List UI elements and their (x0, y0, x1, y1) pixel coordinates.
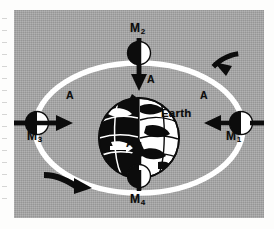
satellite-label-m4: M4 (130, 193, 145, 205)
orbital-diagram-svg (14, 10, 264, 218)
vector-label-a-m4: A (126, 138, 134, 149)
vector-arrowhead-m2 (131, 74, 147, 91)
figure-page: M2 M4 M3 M1 A A A A Earth (0, 0, 274, 229)
vector-label-a-m1: A (200, 90, 208, 101)
vector-label-a-m3: A (66, 90, 74, 101)
satellite-label-m3: M3 (27, 130, 42, 142)
vector-arrowhead-m3 (56, 115, 73, 131)
diagram-panel: M2 M4 M3 M1 A A A A Earth (14, 10, 264, 218)
satellite-label-m2: M2 (130, 22, 145, 34)
motion-arrow-top-right (210, 51, 240, 76)
satellite-label-m1: M1 (226, 130, 241, 142)
vector-arrowhead-m1 (204, 115, 221, 131)
scan-artifact-marks (2, 18, 8, 218)
vector-label-a-m2: A (147, 74, 155, 85)
earth-label: Earth (161, 108, 191, 120)
satellite-m3 (14, 112, 73, 135)
